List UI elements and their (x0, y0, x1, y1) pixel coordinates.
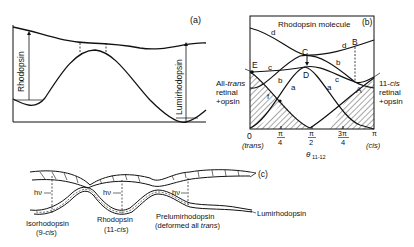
11-cis-label: 11-cis (379, 79, 400, 88)
rhodopsin-sub: (11-cis) (104, 225, 129, 234)
lumirhodopsin-state-label: Lumirhodopsin (257, 209, 306, 218)
retinal-label-right: retinal (379, 88, 401, 97)
curve-label-d: d (342, 41, 346, 50)
x-tick-pi2-den: 2 (309, 138, 313, 147)
x-sub-cis: (cis) (366, 141, 381, 150)
prelumirhodopsin-label: Prelumirhodopsin (156, 212, 214, 221)
x-tick-0: 0 (247, 131, 252, 141)
hatched-region-right (330, 80, 374, 129)
isorhodopsin-sub: (9-cis) (36, 228, 57, 237)
intersection-marker (278, 99, 281, 102)
arrow-head-icon (305, 62, 309, 66)
curve-label-a: a (291, 83, 296, 92)
lower-ribbon (30, 187, 252, 210)
isorhodopsin-label: Isorhodopsin (26, 219, 69, 228)
curve-label-c: c (335, 75, 339, 84)
x-tick-pi4-num: π (278, 130, 283, 137)
leader-line-left (245, 69, 252, 72)
point-label-c: C (302, 47, 308, 57)
curve-label-c: c (268, 63, 272, 72)
opsin-label-left: +opsin (216, 97, 240, 106)
panel-c: hν hν hν (c) Lumirhodopsin Isorhodopsin … (26, 169, 306, 237)
upper-ribbon-inner (32, 176, 250, 188)
point-label-d: D (303, 70, 309, 80)
curve-label-b: b (336, 58, 341, 67)
x-tick-pi4-den: 4 (278, 138, 282, 147)
panel-b-tag: (b) (362, 17, 373, 27)
hv-label: hν (103, 188, 111, 197)
leader-line-right (374, 73, 380, 77)
curve-label-b: b (278, 76, 283, 85)
panel-a-tag: (a) (190, 15, 201, 25)
panel-b: Rhodopsin molecule (b) d d C B E D A c c… (216, 16, 403, 160)
hv-label: hν (34, 188, 42, 197)
panel-b-title: Rhodopsin molecule (278, 20, 351, 29)
x-axis-label: θ (306, 150, 311, 159)
x-tick-3pi4-den: 4 (341, 138, 345, 147)
retinal-label-left: retinal (216, 88, 238, 97)
x-tick-3pi4-num: 3π (338, 130, 347, 137)
rhodopsin-label: Rhodopsin (16, 51, 26, 92)
panel-a: Rhodopsin Lumirhodopsin (a) (13, 15, 206, 122)
point-label-b: B (352, 37, 358, 47)
point-label-a: A (356, 85, 362, 95)
rhodopsin-state-label: Rhodopsin (97, 215, 133, 224)
upper-energy-curve (13, 27, 206, 49)
x-axis-sub: 11-12 (312, 154, 326, 160)
curve-label-a: a (327, 83, 332, 92)
point-label-e: E (252, 60, 258, 70)
ribbon-end (250, 172, 256, 177)
x-sub-trans: (trans) (242, 141, 264, 150)
x-tick-pi: π (372, 130, 377, 137)
all-trans-label: All-trans (216, 79, 245, 88)
x-tick-pi2-num: π (309, 130, 314, 137)
curve-label-d: d (271, 28, 275, 37)
opsin-label-right: +opsin (379, 97, 403, 106)
lower-ribbon-inner (34, 191, 252, 214)
figure-canvas: Rhodopsin Lumirhodopsin (a) (0, 0, 414, 247)
prelumirhodopsin-sub: (deformed all trans) (155, 221, 221, 230)
hv-label: hν (172, 188, 180, 197)
lumirhodopsin-label: Lumirhodopsin (174, 59, 184, 115)
panel-c-tag: (c) (258, 169, 268, 179)
